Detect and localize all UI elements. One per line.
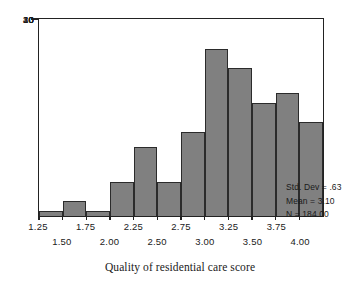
histogram-bar [228, 68, 252, 216]
std-dev-text: Std. Dev = .63 [286, 181, 342, 195]
x-axis-tick-label: 3.50 [243, 236, 262, 247]
x-axis-tick [62, 216, 63, 220]
histogram-bar [252, 103, 276, 216]
bar-series [39, 19, 323, 216]
y-axis-tick-label: 40 [23, 14, 34, 25]
x-axis-tick-label: 3.00 [195, 236, 214, 247]
n-text: N = 184.00 [286, 208, 342, 222]
x-axis-tick [251, 216, 252, 220]
x-axis-tick [204, 216, 205, 220]
histogram-bar [157, 182, 181, 216]
x-axis-tick-label: 3.25 [219, 221, 238, 232]
x-axis-tick [86, 216, 87, 220]
x-axis-tick-label: 3.75 [267, 221, 286, 232]
x-axis-tick [133, 216, 134, 220]
x-axis-tick [180, 216, 181, 220]
x-axis-tick-label: 1.25 [28, 221, 47, 232]
histogram-bar [86, 211, 110, 216]
mean-text: Mean = 3.10 [286, 195, 342, 209]
histogram-figure: 010203040 1.251.752.252.753.253.75 1.502… [0, 0, 360, 287]
x-axis-tick [228, 216, 229, 220]
x-axis-tick-label: 4.00 [291, 236, 310, 247]
x-axis-tick [157, 216, 158, 220]
histogram-bar [134, 147, 158, 216]
histogram-bar [39, 211, 63, 216]
x-axis-title: Quality of residential care score [0, 261, 360, 273]
x-axis-tick-label: 2.50 [148, 236, 167, 247]
x-axis-tick-label: 1.75 [76, 221, 95, 232]
x-axis-tick [275, 216, 276, 220]
histogram-bar [110, 182, 134, 216]
x-axis-tick-label: 2.00 [100, 236, 119, 247]
histogram-bar [181, 132, 205, 216]
plot-area: 010203040 [38, 18, 324, 217]
histogram-bar [63, 201, 87, 216]
x-axis-tick-label: 1.50 [52, 236, 71, 247]
histogram-bar [205, 49, 229, 216]
x-axis-tick [109, 216, 110, 220]
x-axis-tick [38, 216, 39, 220]
x-axis-tick-label: 2.75 [171, 221, 190, 232]
statistics-annotation: Std. Dev = .63 Mean = 3.10 N = 184.00 [286, 181, 342, 222]
x-axis-tick-label: 2.25 [124, 221, 143, 232]
